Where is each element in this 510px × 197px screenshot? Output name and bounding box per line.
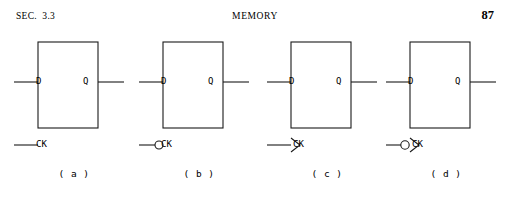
flipflop-diagram-d xyxy=(382,30,510,165)
clock-inversion-bubble-icon xyxy=(401,141,409,149)
running-title: MEMORY xyxy=(0,11,510,21)
data-input-label: D xyxy=(289,77,294,86)
flipflop-symbol-b: D Q CK ( b ) xyxy=(135,30,263,197)
output-label: Q xyxy=(208,77,213,86)
flipflop-diagram-a xyxy=(10,30,138,165)
output-label: Q xyxy=(455,77,460,86)
flipflop-body xyxy=(291,42,351,128)
clock-input-label: CK xyxy=(412,140,423,149)
flipflop-body xyxy=(163,42,223,128)
flipflop-symbol-a: D Q CK ( a ) xyxy=(10,30,138,197)
clock-input-label: CK xyxy=(161,140,172,149)
flipflop-body xyxy=(410,42,470,128)
clock-input-label: CK xyxy=(36,140,47,149)
data-input-label: D xyxy=(161,77,166,86)
flipflop-symbol-c: D Q CK ( c ) xyxy=(263,30,391,197)
page-running-head: SEC. 3.3 MEMORY 87 xyxy=(0,0,510,30)
figure-caption-c: ( c ) xyxy=(263,168,391,179)
clock-input-label: CK xyxy=(293,140,304,149)
output-label: Q xyxy=(336,77,341,86)
page-number: 87 xyxy=(482,8,495,23)
figure-caption-b: ( b ) xyxy=(135,168,263,179)
flipflop-diagram-c xyxy=(263,30,391,165)
figure-caption-d: ( d ) xyxy=(382,168,510,179)
flipflop-symbol-d: D Q CK ( d ) xyxy=(382,30,510,197)
flipflop-body xyxy=(38,42,98,128)
data-input-label: D xyxy=(36,77,41,86)
output-label: Q xyxy=(83,77,88,86)
data-input-label: D xyxy=(408,77,413,86)
figure-caption-a: ( a ) xyxy=(10,168,138,179)
flipflop-figure: D Q CK ( a ) D Q CK ( b ) D Q CK ( c ) xyxy=(0,30,510,197)
flipflop-diagram-b xyxy=(135,30,263,165)
